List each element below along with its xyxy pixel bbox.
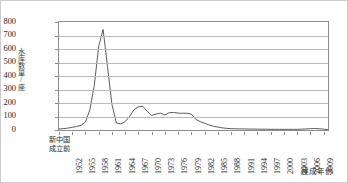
- x-axis-tick-mark: [231, 132, 232, 135]
- x-axis-tick-mark: [257, 132, 258, 135]
- x-axis-tick-label: 1961: [115, 158, 123, 174]
- x-axis-tick-mark: [284, 132, 285, 135]
- x-axis-tick-mark: [99, 132, 100, 135]
- x-axis-tick-mark: [310, 132, 311, 135]
- x-axis-tick-mark: [112, 132, 113, 135]
- x-axis-title: 建成年份: [301, 167, 333, 176]
- plot-area: [58, 21, 329, 131]
- x-axis-tick-label: 1982: [208, 158, 216, 174]
- reservoir-count-line: [59, 29, 328, 129]
- x-axis-tick-mark: [152, 132, 153, 135]
- x-axis-tick-mark: [297, 132, 298, 135]
- x-axis-tick-label: 1967: [142, 158, 150, 174]
- y-axis-tick-label: 700: [0, 31, 16, 39]
- x-axis-tick-mark: [271, 132, 272, 135]
- x-axis-tick-mark: [72, 132, 73, 135]
- x-axis-tick-label: 1988: [234, 158, 242, 174]
- x-axis-tick-mark: [125, 132, 126, 135]
- x-axis-tick-label: 1985: [221, 158, 229, 174]
- x-axis-tick-label: 1955: [89, 158, 97, 174]
- x-axis-tick-label: 1952: [76, 158, 84, 174]
- x-axis-tick-mark: [85, 132, 86, 135]
- x-axis-tick-mark: [165, 132, 166, 135]
- x-axis-tick-label: 1976: [181, 158, 189, 174]
- gridline: [59, 103, 328, 104]
- x-axis-tick-label: 1958: [102, 158, 110, 174]
- x-axis-tick-mark: [218, 132, 219, 135]
- x-axis-tick-labels: 新中国成立前1952195519581961196419671970197319…: [58, 132, 329, 176]
- x-axis-tick-label: 1970: [155, 158, 163, 174]
- x-axis-tick-mark: [138, 132, 139, 135]
- x-axis-tick-mark: [244, 132, 245, 135]
- y-axis-tick-label: 500: [0, 58, 16, 66]
- y-axis-tick-label: 600: [0, 45, 16, 53]
- y-axis-tick-label: 100: [0, 112, 16, 120]
- y-axis-tick-label: 800: [0, 18, 16, 26]
- x-axis-tick-label: 2000: [287, 158, 295, 174]
- x-axis-tick-label: 新中国成立前: [46, 136, 72, 153]
- x-axis-tick-label: 1973: [168, 158, 176, 174]
- x-axis-tick-label: 1997: [274, 158, 282, 174]
- gridline: [59, 63, 328, 64]
- gridline: [59, 117, 328, 118]
- y-axis-tick-label: 0: [0, 126, 16, 134]
- gridline: [59, 90, 328, 91]
- y-axis-title: 水库数量/座: [15, 19, 27, 119]
- x-axis-tick-mark: [191, 132, 192, 135]
- y-axis-tick-label: 300: [0, 85, 16, 93]
- gridline: [59, 36, 328, 37]
- x-axis-tick-label: 1994: [261, 158, 269, 174]
- x-axis-tick-label: 1991: [248, 158, 256, 174]
- x-axis-tick-label: 1964: [129, 158, 137, 174]
- chart-figure: 水库数量/座 0100200300400500600700800 新中国成立前1…: [0, 0, 348, 183]
- y-axis-tick-label: 200: [0, 99, 16, 107]
- gridline: [59, 49, 328, 50]
- x-axis-tick-mark: [205, 132, 206, 135]
- x-axis-tick-mark: [178, 132, 179, 135]
- x-axis-tick-label: 1979: [195, 158, 203, 174]
- gridline: [59, 76, 328, 77]
- y-axis-tick-label: 400: [0, 72, 16, 80]
- x-axis-tick-mark: [324, 132, 325, 135]
